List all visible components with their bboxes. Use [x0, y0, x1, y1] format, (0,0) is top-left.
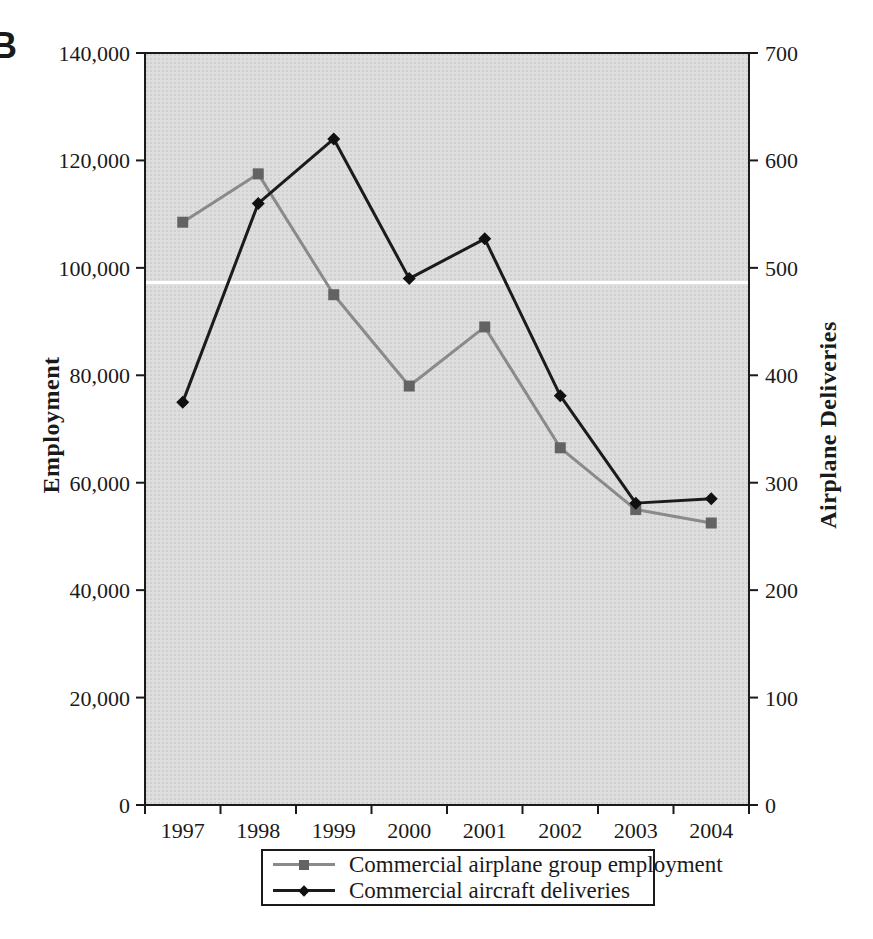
left-axis-tick-label: 20,000: [70, 686, 131, 711]
data-point-square: [328, 289, 339, 300]
left-axis-tick-label: 0: [119, 793, 130, 818]
data-point-diamond: [705, 492, 718, 505]
left-axis-tick-label: 100,000: [59, 256, 131, 281]
data-point-square: [404, 381, 415, 392]
chart-plot: 020,00040,00060,00080,000100,000120,0001…: [0, 0, 873, 939]
data-point-square: [479, 321, 490, 332]
legend: Commercial airplane group employment Com…: [261, 849, 655, 906]
right-axis-title: Airplane Deliveries: [815, 321, 842, 528]
x-axis-year-label: 2001: [463, 818, 507, 843]
x-axis-year-label: 1999: [312, 818, 356, 843]
square-marker-icon: [299, 860, 309, 870]
right-axis-tick-label: 400: [765, 363, 798, 388]
figure-page: { "panel_label": "B", "chart_data": { "t…: [0, 0, 873, 939]
data-point-diamond: [403, 272, 416, 285]
data-point-diamond: [478, 232, 491, 245]
plot-frame: [145, 53, 749, 805]
right-axis-tick-label: 100: [765, 686, 798, 711]
right-axis-tick-label: 300: [765, 471, 798, 496]
right-axis-tick-label: 600: [765, 148, 798, 173]
x-axis-year-label: 2000: [387, 818, 431, 843]
legend-line-sample-employment: [273, 863, 335, 866]
data-point-square: [253, 168, 264, 179]
right-axis-tick-label: 500: [765, 256, 798, 281]
series-line-employment: [183, 174, 712, 523]
x-axis-year-label: 1997: [161, 818, 205, 843]
legend-label-deliveries: Commercial aircraft deliveries: [349, 879, 630, 902]
series-line-deliveries: [183, 139, 712, 503]
left-axis-tick-label: 120,000: [59, 148, 131, 173]
right-axis-tick-label: 200: [765, 578, 798, 603]
right-axis-tick-label: 700: [765, 41, 798, 66]
x-axis-year-label: 2004: [689, 818, 733, 843]
left-axis-title: Employment: [38, 357, 65, 494]
x-axis-year-label: 1998: [236, 818, 280, 843]
left-axis-tick-label: 140,000: [59, 41, 131, 66]
legend-entry-deliveries: Commercial aircraft deliveries: [273, 878, 653, 903]
data-point-square: [706, 518, 717, 529]
left-axis-tick-label: 40,000: [70, 578, 131, 603]
diamond-marker-icon: [298, 885, 309, 896]
legend-entry-employment: Commercial airplane group employment: [273, 852, 653, 877]
x-axis-year-label: 2002: [538, 818, 582, 843]
left-axis-tick-label: 60,000: [70, 471, 131, 496]
legend-label-employment: Commercial airplane group employment: [349, 853, 723, 876]
x-axis-year-label: 2003: [614, 818, 658, 843]
right-axis-tick-label: 0: [765, 793, 776, 818]
legend-line-sample-deliveries: [273, 889, 335, 892]
data-point-square: [177, 217, 188, 228]
data-point-square: [555, 442, 566, 453]
left-axis-tick-label: 80,000: [70, 363, 131, 388]
data-point-diamond: [176, 396, 189, 409]
